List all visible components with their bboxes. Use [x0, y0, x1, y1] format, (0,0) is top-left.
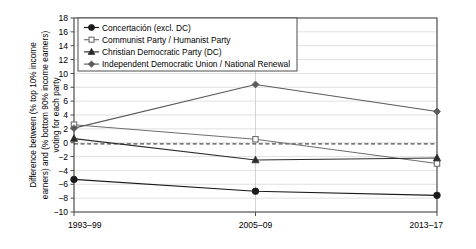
ytick-label-5: 8: [63, 82, 68, 92]
legend-label-2: Christian Democratic Party (DC): [102, 47, 222, 57]
legend-marker-1: [89, 37, 94, 42]
line-chart: 181614121086420−2−4−6−8−101993–992005–09…: [0, 0, 476, 249]
data-point-s1-x2: [434, 161, 439, 166]
ytick-label-6: 6: [63, 96, 68, 106]
data-point-s1-x1: [253, 137, 258, 142]
ytick-label-13: −8: [58, 193, 68, 203]
legend: Concertación (excl. DC)Communist Party /…: [78, 18, 297, 71]
ytick-label-4: 10: [58, 69, 68, 79]
legend-marker-0: [88, 24, 94, 30]
y-axis-title-line-2: voting for each party: [51, 77, 61, 153]
ytick-label-7: 4: [63, 110, 68, 120]
y-axis-title-line-1: earners) and (% bottom 90% income earner…: [40, 31, 50, 200]
ytick-label-9: 0: [63, 138, 68, 148]
xtick-label-0: 1993–99: [68, 220, 102, 230]
y-axis-title-line-0: Difference between (% top 10% income: [28, 42, 38, 188]
data-point-s0-x1: [252, 188, 259, 195]
xtick-label-1: 2005–09: [239, 220, 273, 230]
data-point-s0-x2: [434, 192, 441, 199]
data-point-s2-x0: [70, 135, 77, 142]
data-point-s0-x0: [71, 176, 78, 183]
ytick-label-2: 14: [58, 41, 68, 51]
ytick-label-12: −6: [58, 179, 68, 189]
ytick-label-8: 2: [63, 124, 68, 134]
data-point-s3-x2: [434, 108, 441, 115]
data-point-s2-x2: [433, 154, 440, 161]
ytick-label-1: 16: [58, 27, 68, 37]
ytick-label-11: −4: [58, 166, 68, 176]
legend-label-3: Independent Democratic Union / National …: [102, 59, 290, 69]
legend-label-0: Concertación (excl. DC): [102, 23, 191, 33]
xtick-label-2: 2013–17: [410, 220, 444, 230]
chart-container: 181614121086420−2−4−6−8−101993–992005–09…: [0, 0, 476, 249]
ytick-label-3: 12: [58, 55, 68, 65]
legend-label-1: Communist Party / Humanist Party: [102, 35, 231, 45]
ytick-label-0: 18: [58, 13, 68, 23]
ytick-label-14: −10: [53, 207, 68, 217]
